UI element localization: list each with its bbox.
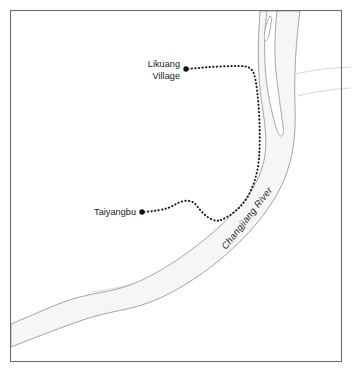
place-label-taiyangbu: Taiyangbu: [94, 207, 136, 217]
place-label-likuang-line1: Likuang: [148, 59, 180, 69]
map-figure: Changjiang River Likuang Village Taiyang…: [0, 0, 352, 373]
trails-group: [144, 66, 260, 221]
river-distributary-line: [296, 67, 351, 74]
place-marker-likuang-village[interactable]: [183, 66, 188, 71]
place-labels-group: Likuang Village Taiyangbu: [94, 59, 180, 217]
place-marker-taiyangbu[interactable]: [139, 209, 144, 214]
place-label-likuang-line2: Village: [153, 71, 180, 81]
trail-taiyangbu[interactable]: [144, 201, 221, 221]
river-group: Changjiang River: [11, 11, 351, 347]
map-canvas: Changjiang River Likuang Village Taiyang…: [0, 0, 352, 373]
places-group: [139, 66, 188, 214]
river-distributary-line-2: [297, 88, 351, 96]
